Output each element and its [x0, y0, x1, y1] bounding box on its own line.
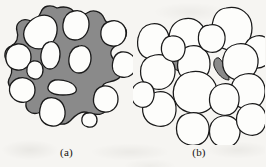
inclusion-bottom-left — [40, 98, 66, 126]
cell-14 — [237, 104, 266, 136]
panel-b-diagram — [133, 0, 265, 145]
cell-group — [133, 7, 265, 145]
inclusion-interior-2 — [69, 46, 91, 73]
inclusion-bottom-right — [93, 86, 118, 112]
panel-b: (b) — [133, 0, 265, 167]
cell-15 — [133, 82, 154, 108]
panel-a-diagram — [0, 0, 133, 145]
cell-12 — [177, 113, 210, 145]
cell-10 — [210, 84, 240, 116]
figure-root: (a) — [0, 0, 265, 167]
panel-a: (a) — [0, 0, 133, 167]
cell-13 — [210, 116, 241, 145]
inclusion-top-right — [101, 21, 126, 46]
panel-a-caption: (a) — [0, 147, 133, 158]
inclusion-right-mid — [112, 52, 133, 77]
cell-16 — [198, 25, 225, 53]
inclusion-interior-1 — [41, 42, 60, 69]
inclusion-left-lower — [9, 78, 35, 103]
inclusion-detached-small — [82, 113, 97, 127]
inclusion-top-center — [63, 11, 89, 40]
panel-b-caption: (b) — [133, 147, 265, 158]
inclusion-interior-4 — [27, 61, 43, 79]
cell-17 — [161, 36, 185, 62]
